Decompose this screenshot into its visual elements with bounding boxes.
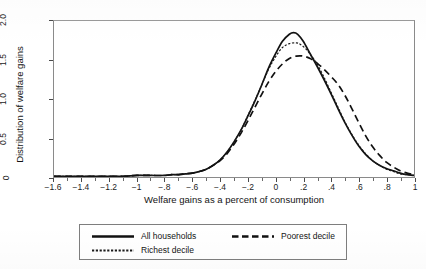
x-axis-tick-label: 0 [273,183,278,192]
x-axis-tick-label: 1 [413,183,418,192]
x-axis-tick-label: .2 [300,183,307,192]
x-axis-minor-tick-mark [262,178,263,181]
y-axis-tick-mark [49,20,53,21]
x-axis-minor-tick-mark [401,178,402,181]
x-axis-tick-label: .6 [356,183,363,192]
x-axis-minor-tick-mark [345,178,346,181]
x-axis-tick-label: −1.2 [100,183,117,192]
legend-swatch-solid-icon [92,232,134,241]
y-axis-tick-label: 0 [2,176,11,181]
y-axis-tick-mark [49,139,53,140]
legend-swatch-dotted-icon [92,246,134,255]
y-axis-tick-label: 1.5 [0,54,7,66]
legend-item-richest-decile: Richest decile [92,245,194,255]
x-axis-minor-tick-mark [178,178,179,181]
x-axis-minor-tick-mark [234,178,235,181]
legend-swatch-dashed-icon [232,232,274,241]
x-axis-tick-label: −1.4 [72,183,89,192]
x-axis-minor-tick-mark [123,178,124,181]
x-axis-tick-label: .4 [328,183,335,192]
series-line-all-households [54,33,414,177]
series-line-richest-decile [54,43,414,176]
x-axis-minor-tick-mark [373,178,374,181]
x-axis-minor-tick-mark [95,178,96,181]
legend-item-poorest-decile: Poorest decile [232,231,335,241]
y-axis-tick-mark [49,99,53,100]
y-axis-tick-mark [49,178,53,179]
legend-label-all-households: All households [141,231,196,241]
y-axis-tick-label: 2.0 [0,14,7,26]
legend-label-poorest-decile: Poorest decile [281,231,335,241]
plot-svg [54,21,414,177]
legend-label-richest-decile: Richest decile [141,245,194,255]
x-axis-tick-label: −.2 [242,183,254,192]
x-axis-minor-tick-mark [290,178,291,181]
x-axis-minor-tick-mark [150,178,151,181]
y-axis-tick-mark [49,60,53,61]
y-axis-title: Distribution of welfare gains [14,25,25,185]
legend-item-all-households: All households [92,231,196,241]
series-layer [54,33,414,177]
x-axis-tick-label: −.6 [186,183,198,192]
x-axis-minor-tick-mark [67,178,68,181]
x-axis-tick-label: .8 [384,183,391,192]
x-axis-tick-label: −.4 [214,183,226,192]
x-axis-title: Welfare gains as a percent of consumptio… [53,194,415,205]
x-axis-tick-label: −1.6 [45,183,62,192]
x-axis-tick-label: −1 [132,183,142,192]
series-line-poorest-decile [54,56,414,176]
figure: −1.6−1.4−1.2−1−.8−.6−.4−.20.2.4.6.8100.5… [0,0,426,269]
x-axis-minor-tick-mark [318,178,319,181]
x-axis-minor-tick-mark [206,178,207,181]
y-axis-tick-label: 0.5 [0,133,7,145]
legend: All households Poorest decile Richest de… [79,224,347,260]
plot-area [53,20,415,178]
y-axis-tick-label: 1.0 [0,93,7,105]
x-axis-tick-label: −.8 [158,183,170,192]
